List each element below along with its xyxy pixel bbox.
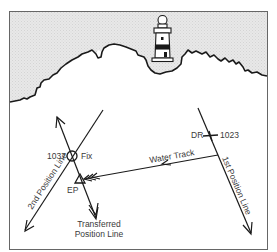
transferred-label-line2: Position Line: [75, 229, 124, 239]
transferred-label-line1: Transferred: [77, 219, 121, 229]
ep-label: EP: [67, 185, 79, 195]
fix-label: Fix: [81, 151, 93, 161]
running-fix-diagram: 1037 Fix DR 1023 Water Track 1st Positio…: [0, 0, 277, 252]
dr-label: DR: [191, 130, 203, 140]
dr-time-label: 1023: [220, 130, 239, 140]
